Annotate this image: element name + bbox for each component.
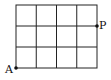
point-a-label: A	[4, 63, 14, 76]
point-a-dot	[14, 66, 18, 70]
grid-lines	[16, 5, 97, 68]
point-p-label: P	[99, 19, 107, 32]
grid-diagram: A P	[0, 0, 111, 80]
